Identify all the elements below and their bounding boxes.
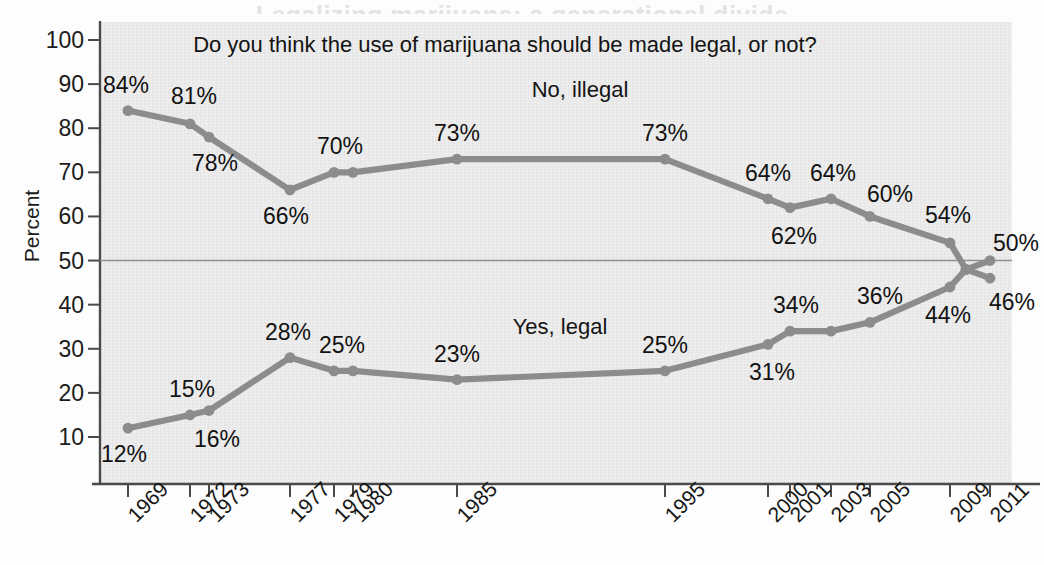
data-value-label: 34% (773, 292, 819, 319)
data-point-marker (348, 167, 359, 178)
data-value-label: 46% (989, 289, 1035, 316)
data-value-label: 28% (265, 318, 311, 345)
data-point-marker (763, 339, 774, 350)
data-point-marker (865, 211, 876, 222)
series-line-no-illegal (128, 111, 990, 270)
data-point-marker (285, 352, 296, 363)
data-point-marker (826, 193, 837, 204)
data-value-label: 31% (749, 359, 795, 386)
data-value-label: 16% (194, 425, 240, 452)
data-value-label: 81% (171, 82, 217, 109)
data-point-marker (329, 167, 340, 178)
data-point-marker (945, 282, 956, 293)
data-point-marker (185, 410, 196, 421)
data-value-label: 25% (319, 331, 365, 358)
data-value-label: 73% (642, 120, 688, 147)
data-value-label: 54% (925, 201, 971, 228)
chart-question-subtitle: Do you think the use of marijuana should… (193, 32, 817, 58)
data-point-marker (329, 365, 340, 376)
data-value-label: 70% (317, 133, 363, 160)
data-point-marker (763, 193, 774, 204)
data-value-label: 62% (771, 222, 817, 249)
data-point-marker (785, 326, 796, 337)
data-point-marker (826, 326, 837, 337)
data-point-marker (961, 264, 972, 275)
data-point-marker (452, 154, 463, 165)
data-value-label: 36% (857, 283, 903, 310)
data-value-label: 23% (434, 340, 480, 367)
data-point-marker (865, 317, 876, 328)
data-value-label: 25% (642, 331, 688, 358)
series-label-no-illegal: No, illegal (532, 77, 629, 103)
data-point-marker (204, 132, 215, 143)
data-point-marker (348, 365, 359, 376)
data-value-label: 12% (101, 441, 147, 468)
data-value-label: 60% (867, 181, 913, 208)
data-point-marker (204, 405, 215, 416)
data-value-label: 73% (434, 120, 480, 147)
data-value-label: 15% (169, 375, 215, 402)
data-point-marker (123, 105, 134, 116)
data-point-marker (985, 273, 996, 284)
data-point-marker (985, 255, 996, 266)
data-point-marker (285, 185, 296, 196)
data-point-marker (785, 202, 796, 213)
data-point-marker (185, 118, 196, 129)
data-point-marker (660, 365, 671, 376)
data-point-marker (660, 154, 671, 165)
data-point-marker (123, 423, 134, 434)
data-value-label: 66% (263, 202, 309, 229)
series-label-yes-legal: Yes, legal (513, 314, 608, 340)
chart-page: Legalizing marijuana: a generational div… (0, 0, 1044, 565)
data-point-marker (452, 374, 463, 385)
data-value-label: 64% (745, 159, 791, 186)
data-value-label: 50% (993, 229, 1039, 256)
data-value-label: 78% (192, 150, 238, 177)
data-value-label: 84% (103, 71, 149, 98)
data-value-label: 64% (810, 159, 856, 186)
data-point-marker (945, 238, 956, 249)
data-value-label: 44% (925, 302, 971, 329)
